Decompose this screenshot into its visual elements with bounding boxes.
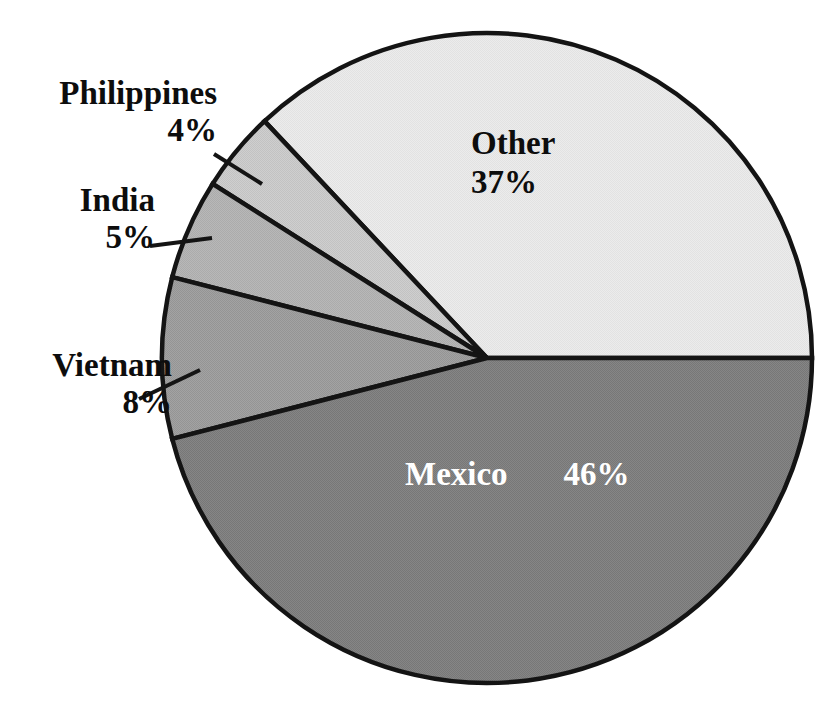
slice-label-other-percent: 37% (471, 163, 555, 202)
slice-label-other-name: Other (471, 124, 555, 163)
slice-label-philippines-percent: 4% (22, 112, 217, 149)
slice-label-mexico: Mexico 46% (405, 455, 630, 494)
slice-label-mexico-percent: 46% (564, 455, 630, 494)
pie-chart: Philippines 4% India 5% Vietnam 8% Other… (0, 0, 821, 702)
slice-label-philippines: Philippines 4% (22, 75, 217, 149)
slice-label-india: India 5% (22, 182, 155, 256)
slice-label-vietnam-name: Vietnam (2, 347, 172, 384)
slice-label-india-name: India (22, 182, 155, 219)
slice-label-vietnam: Vietnam 8% (2, 347, 172, 421)
slice-label-vietnam-percent: 8% (2, 384, 172, 421)
slice-label-philippines-name: Philippines (22, 75, 217, 112)
slice-label-other: Other 37% (471, 124, 555, 202)
slice-label-mexico-name: Mexico (405, 455, 508, 494)
slice-label-india-percent: 5% (22, 219, 155, 256)
